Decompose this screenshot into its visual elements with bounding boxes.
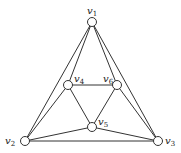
graph-vertices (21, 18, 163, 146)
vertex-label-v3: v3 (165, 135, 175, 148)
vertex-label-v6: v6 (103, 73, 114, 86)
graph-diagram: v1v2v3v4v5v6 (0, 0, 181, 153)
vertex-v2 (21, 137, 30, 146)
vertex-v4 (64, 81, 73, 90)
vertex-label-v2: v2 (5, 135, 15, 148)
edge-v1-v4 (68, 22, 92, 85)
edge-v4-v5 (68, 85, 92, 127)
vertex-v6 (113, 81, 122, 90)
vertex-v3 (154, 137, 163, 146)
edge-v5-v2 (25, 127, 92, 141)
edge-v4-v2 (25, 85, 68, 141)
vertex-label-v5: v5 (98, 116, 108, 129)
vertex-v1 (88, 18, 97, 27)
vertex-v5 (88, 123, 97, 132)
edge-v5-v3 (92, 127, 158, 141)
vertex-label-v4: v4 (74, 73, 85, 86)
edge-v6-v3 (117, 85, 158, 141)
vertex-label-v1: v1 (87, 5, 97, 18)
